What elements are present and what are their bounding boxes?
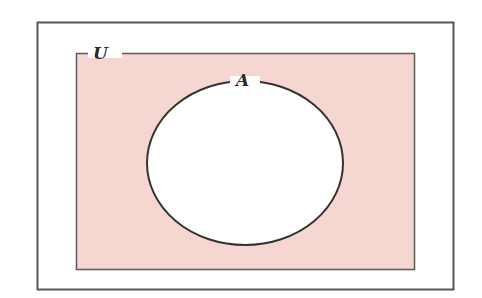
set-a-ellipse <box>147 81 343 245</box>
universe-label: U <box>93 43 109 63</box>
venn-diagram: U A <box>0 0 482 298</box>
set-a-label: A <box>234 70 249 90</box>
